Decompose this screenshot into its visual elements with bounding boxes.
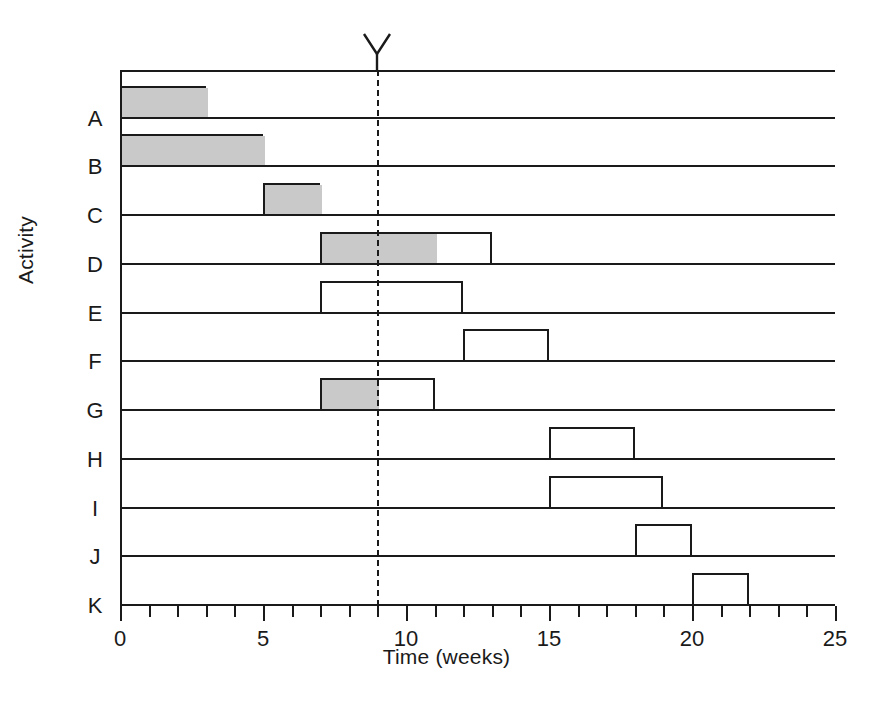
x-tick-25 — [835, 606, 837, 621]
task-bar-c[interactable] — [263, 183, 320, 216]
x-tick-21 — [721, 606, 723, 617]
row-baseline-g — [120, 409, 835, 411]
x-tick-8 — [349, 606, 351, 617]
y-axis-title: Activity — [14, 150, 38, 350]
x-tick-2 — [177, 606, 179, 617]
x-tick-13 — [492, 606, 494, 617]
activity-label-f: F — [80, 351, 110, 373]
x-tick-7 — [320, 606, 322, 617]
row-baseline-a — [120, 117, 835, 119]
plot-area: ABCDEFGHIJK 0510152025 — [120, 70, 835, 606]
x-tick-15 — [549, 606, 551, 621]
activity-label-k: K — [80, 595, 110, 617]
x-tick-19 — [663, 606, 665, 617]
task-bar-f[interactable] — [463, 329, 549, 362]
time-now-line — [377, 70, 379, 606]
activity-label-e: E — [80, 303, 110, 325]
plot-top-border — [120, 70, 835, 72]
x-axis-title: Time (weeks) — [0, 645, 893, 669]
task-bar-progress-c — [265, 185, 322, 214]
task-bar-b[interactable] — [120, 134, 263, 167]
x-tick-12 — [463, 606, 465, 617]
x-tick-24 — [806, 606, 808, 617]
row-baseline-e — [120, 312, 835, 314]
task-bar-e[interactable] — [320, 281, 463, 314]
x-tick-4 — [234, 606, 236, 617]
task-bar-k[interactable] — [692, 573, 749, 606]
x-tick-5 — [263, 606, 265, 621]
x-tick-1 — [149, 606, 151, 617]
activity-label-h: H — [80, 449, 110, 471]
x-tick-20 — [692, 606, 694, 621]
activity-label-g: G — [80, 400, 110, 422]
task-bar-progress-g — [322, 380, 379, 409]
x-tick-3 — [206, 606, 208, 617]
row-baseline-c — [120, 214, 835, 216]
task-bar-i[interactable] — [549, 476, 663, 509]
task-bar-d[interactable] — [320, 232, 492, 265]
row-baseline-h — [120, 458, 835, 460]
activity-label-b: B — [80, 156, 110, 178]
x-tick-6 — [292, 606, 294, 617]
x-tick-18 — [635, 606, 637, 617]
x-tick-22 — [749, 606, 751, 617]
row-baseline-j — [120, 555, 835, 557]
activity-label-i: I — [80, 498, 110, 520]
task-bar-progress-b — [122, 136, 265, 165]
x-tick-23 — [778, 606, 780, 617]
x-tick-16 — [578, 606, 580, 617]
x-tick-9 — [377, 606, 379, 617]
x-tick-14 — [520, 606, 522, 617]
task-bar-h[interactable] — [549, 427, 635, 460]
time-now-arrow-icon — [360, 32, 394, 72]
x-tick-11 — [435, 606, 437, 617]
activity-label-c: C — [80, 205, 110, 227]
activity-label-d: D — [80, 254, 110, 276]
x-tick-0 — [120, 606, 122, 621]
x-tick-10 — [406, 606, 408, 621]
task-bar-j[interactable] — [635, 524, 692, 557]
activity-label-j: J — [80, 546, 110, 568]
activity-label-a: A — [80, 108, 110, 130]
row-baseline-i — [120, 507, 835, 509]
task-bar-progress-a — [122, 88, 208, 117]
task-bar-a[interactable] — [120, 86, 206, 119]
x-tick-17 — [606, 606, 608, 617]
gantt-chart: Activity ABCDEFGHIJK 0510152025 Time (we… — [0, 0, 893, 701]
